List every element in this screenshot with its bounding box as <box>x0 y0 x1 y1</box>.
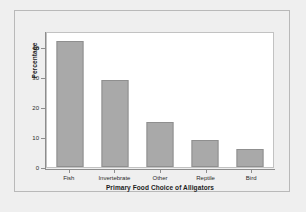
y-tick-label: 20 <box>0 105 39 111</box>
x-tick-mark <box>251 169 252 173</box>
x-tick-mark <box>114 169 115 173</box>
plot-area <box>46 32 274 168</box>
y-tick-mark <box>41 108 45 109</box>
x-axis-title: Primary Food Choice of Alligators <box>46 184 274 191</box>
y-axis-title: Percentage <box>31 16 38 106</box>
bar-fish[interactable] <box>56 41 83 167</box>
y-tick-mark <box>41 48 45 49</box>
bar-slot <box>228 33 273 167</box>
x-tick-label-bird: Bird <box>221 175 281 181</box>
x-tick-mark <box>160 169 161 173</box>
x-tick-mark <box>206 169 207 173</box>
x-tick-mark <box>69 169 70 173</box>
bars-layer <box>47 33 273 167</box>
bar-slot <box>183 33 228 167</box>
bar-slot <box>92 33 137 167</box>
bar-other[interactable] <box>146 122 173 167</box>
y-tick-label: 10 <box>0 135 39 141</box>
bar-bird[interactable] <box>237 149 264 167</box>
bar-reptile[interactable] <box>192 140 219 167</box>
y-tick-label: 0 <box>0 165 39 171</box>
y-tick-mark <box>41 138 45 139</box>
figure-frame: 010203040 Percentage FishInvertebrateOth… <box>14 10 290 192</box>
bar-slot <box>137 33 182 167</box>
y-axis-line <box>45 32 46 169</box>
bar-invertebrate[interactable] <box>101 80 128 167</box>
bar-slot <box>47 33 92 167</box>
y-tick-mark <box>41 78 45 79</box>
